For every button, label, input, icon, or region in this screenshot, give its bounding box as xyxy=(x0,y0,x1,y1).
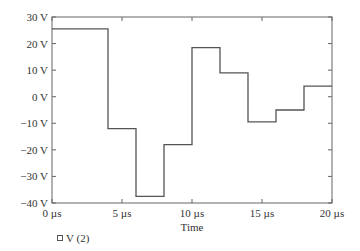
x-tick-label: 0 µs xyxy=(43,207,62,219)
y-tick-label: −20 V xyxy=(20,144,48,156)
y-tick-label: 30 V xyxy=(27,11,49,23)
x-axis-label: Time xyxy=(181,221,204,233)
x-tick-label: 20 µs xyxy=(320,207,344,219)
y-tick-label: −30 V xyxy=(20,170,48,182)
x-tick-label: 10 µs xyxy=(180,207,204,219)
x-tick-label: 15 µs xyxy=(250,207,274,219)
y-tick-label: 0 V xyxy=(32,91,48,103)
y-tick-label: −10 V xyxy=(20,117,48,129)
legend-marker-icon xyxy=(57,235,63,241)
legend: V (2) xyxy=(57,232,89,244)
legend-label: V (2) xyxy=(66,232,89,244)
y-tick-label: 10 V xyxy=(27,64,49,76)
chart: 30 V20 V10 V0 V−10 V−20 V−30 V−40 V 0 µs… xyxy=(0,0,360,251)
x-tick-label: 5 µs xyxy=(113,207,132,219)
series-line xyxy=(52,29,332,196)
y-tick-label: 20 V xyxy=(27,38,49,50)
